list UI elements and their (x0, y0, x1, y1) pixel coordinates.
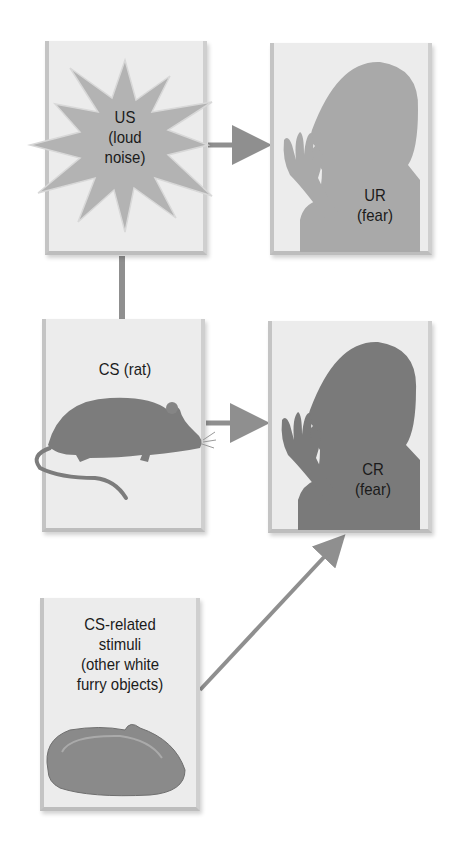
cs-related-label-line-1: CS-related (58, 615, 181, 635)
cs-related-label-line-3: (other white (58, 655, 181, 675)
slipper-icon (0, 0, 454, 852)
cs-related-label: CS-related stimuli (other white furry ob… (58, 615, 181, 695)
cs-related-label-line-2: stimuli (58, 635, 181, 655)
cs-related-label-line-4: furry objects) (58, 675, 181, 695)
